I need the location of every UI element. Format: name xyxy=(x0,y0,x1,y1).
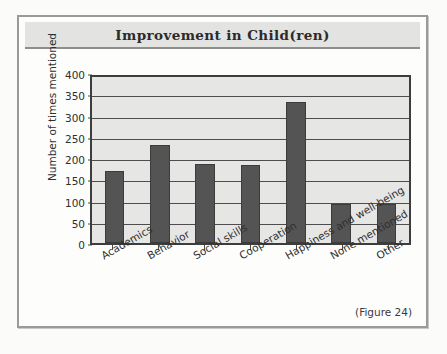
bar[interactable] xyxy=(150,145,169,243)
y-axis-tick-label: 250 xyxy=(65,134,85,145)
y-axis-tick-label: 50 xyxy=(72,219,85,230)
bar-slot xyxy=(228,77,273,243)
y-axis-tick-label: 200 xyxy=(65,155,85,166)
y-axis-tick-label: 0 xyxy=(78,240,85,251)
bar-slot xyxy=(183,77,228,243)
bar[interactable] xyxy=(105,171,124,243)
figure-caption: (Figure 24) xyxy=(355,306,412,318)
bar-chart: Number of times mentioned 05010015020025… xyxy=(19,51,426,326)
y-axis-tick-label: 150 xyxy=(65,176,85,187)
y-axis-tick-label: 100 xyxy=(65,197,85,208)
bar-slot xyxy=(137,77,182,243)
y-axis-tick-label: 300 xyxy=(65,112,85,123)
plot-area xyxy=(90,75,411,245)
chart-title-band: Improvement in Child(ren) xyxy=(25,22,420,49)
y-axis-tick-label: 350 xyxy=(65,91,85,102)
y-axis-tick-label: 400 xyxy=(65,70,85,81)
bar-slot xyxy=(273,77,318,243)
page-title: Improvement in Child(ren) xyxy=(115,27,329,43)
y-axis-tick-labels: 050100150200250300350400 xyxy=(51,75,85,245)
bar-slot xyxy=(92,77,137,243)
figure-frame: Improvement in Child(ren) Number of time… xyxy=(17,15,428,328)
bar[interactable] xyxy=(195,164,214,243)
